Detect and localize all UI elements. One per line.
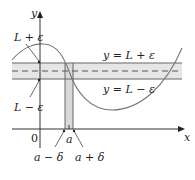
a-label: a bbox=[66, 133, 73, 146]
a-minus-delta-label: a − δ bbox=[34, 151, 64, 164]
pointer-lower-left bbox=[30, 81, 39, 97]
pointer-upper-left bbox=[26, 44, 39, 61]
y-axis-arrow-icon bbox=[37, 11, 43, 18]
pointer-a-minus-delta bbox=[55, 131, 64, 147]
pointer-a-plus-delta bbox=[74, 131, 83, 147]
x-axis-label: x bbox=[184, 131, 191, 144]
delta-strip bbox=[65, 63, 73, 129]
l-minus-epsilon-label: L − ε bbox=[13, 101, 44, 114]
y-axis-label: y bbox=[30, 7, 38, 20]
a-plus-delta-label: a + δ bbox=[75, 151, 105, 164]
l-plus-epsilon-label: L + ε bbox=[13, 31, 44, 44]
lower-line-label: y = L − ε bbox=[102, 83, 155, 96]
limit-diagram: y x 0 L + ε L − ε y = L + ε y = L − ε a … bbox=[0, 0, 195, 180]
upper-line-label: y = L + ε bbox=[102, 49, 155, 62]
origin-label: 0 bbox=[31, 132, 38, 145]
